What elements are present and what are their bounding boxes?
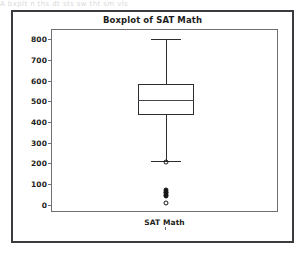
- plot-area: 0100200300400500600700800: [51, 29, 278, 212]
- x-axis-label: SAT Math: [51, 218, 278, 227]
- y-axis-tick-label: 0: [42, 200, 47, 209]
- y-axis-tick-label: 800: [31, 35, 47, 44]
- interquartile-box: [138, 84, 194, 115]
- x-axis-tick-label: SAT Math: [144, 218, 185, 227]
- median-line: [138, 100, 194, 101]
- y-axis-tick-label: 700: [31, 55, 47, 64]
- outlier-point: [163, 160, 168, 165]
- upper-whisker-line: [166, 39, 167, 83]
- boxplot-sat-math: [52, 30, 277, 211]
- y-axis-tick-label: 600: [31, 76, 47, 85]
- upper-whisker-cap: [151, 39, 181, 40]
- y-axis-tick-label: 300: [31, 138, 47, 147]
- outlier-point: [163, 194, 168, 199]
- x-axis-tick-mark: [165, 227, 166, 230]
- figure-frame: Boxplot of SAT Math 01002003004005006007…: [11, 10, 294, 243]
- chart-title: Boxplot of SAT Math: [13, 12, 292, 28]
- y-axis-tick-label: 500: [31, 97, 47, 106]
- outlier-point: [163, 200, 168, 205]
- y-axis-tick-label: 400: [31, 118, 47, 127]
- document-bleed-text: A bxplt n ths dt sts sw tht sm vls: [0, 0, 305, 9]
- y-axis-tick-label: 100: [31, 180, 47, 189]
- lower-whisker-line: [166, 115, 167, 162]
- y-axis-tick-label: 200: [31, 159, 47, 168]
